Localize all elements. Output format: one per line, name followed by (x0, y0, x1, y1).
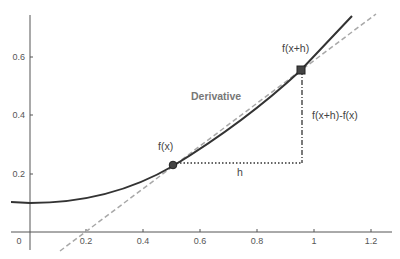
label-fxh: f(x+h) (282, 42, 309, 54)
x-tick-label: 0.6 (194, 236, 207, 246)
label-fx: f(x) (158, 140, 173, 152)
label-difference: f(x+h)-f(x) (312, 109, 358, 121)
label-h: h (237, 166, 243, 178)
x-tick-label: 1.2 (365, 236, 378, 246)
y-tick-label: 0.6 (12, 52, 25, 62)
derivative-chart: 0 0.2 0.4 0.6 0.8 1 1.2 0.2 0.4 0.6 f(x)… (0, 0, 400, 259)
x-tick-label: 1 (311, 236, 316, 246)
point-fxh[interactable] (297, 66, 305, 74)
y-tick-label: 0.4 (12, 110, 25, 120)
tangent-line (60, 14, 376, 251)
chart-title: Derivative (191, 90, 241, 102)
x-tick-label: 0.2 (80, 236, 93, 246)
x-tick-label: 0.8 (251, 236, 264, 246)
point-fx[interactable] (169, 161, 177, 169)
y-tick-label: 0.2 (12, 169, 25, 179)
x-tick-label: 0 (16, 236, 21, 246)
x-tick-label: 0.4 (137, 236, 150, 246)
